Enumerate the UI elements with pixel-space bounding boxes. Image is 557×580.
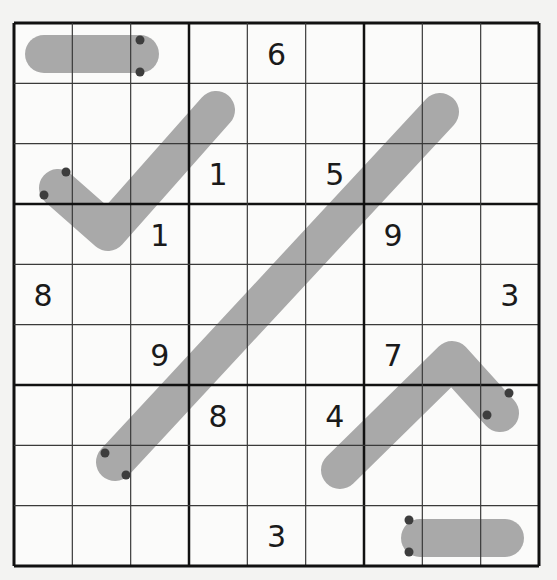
cell-r4c3[interactable]: 1 [131, 204, 189, 264]
cell-r8c8[interactable] [422, 445, 480, 505]
cell-r4c8[interactable] [422, 204, 480, 264]
cell-hitbox[interactable] [72, 144, 130, 204]
cell-r8c3[interactable] [131, 445, 189, 505]
cell-hitbox[interactable] [247, 264, 305, 324]
cell-r1c2[interactable] [72, 23, 130, 83]
cell-r5c3[interactable] [131, 264, 189, 324]
cell-hitbox[interactable] [364, 445, 422, 505]
cell-r6c2[interactable] [72, 325, 130, 385]
cell-r5c5[interactable] [247, 264, 305, 324]
cell-r2c8[interactable] [422, 83, 480, 143]
cell-hitbox[interactable] [131, 445, 189, 505]
cell-hitbox[interactable] [14, 23, 72, 83]
cell-hitbox[interactable] [481, 445, 539, 505]
cell-hitbox[interactable] [422, 264, 480, 324]
cell-r8c9[interactable] [481, 445, 539, 505]
cell-hitbox[interactable] [72, 23, 130, 83]
cell-hitbox[interactable] [422, 506, 480, 566]
cell-hitbox[interactable] [422, 385, 480, 445]
cell-r6c6[interactable] [306, 325, 364, 385]
cell-hitbox[interactable] [247, 204, 305, 264]
cell-hitbox[interactable] [481, 144, 539, 204]
cell-hitbox[interactable] [72, 506, 130, 566]
cell-hitbox[interactable] [72, 325, 130, 385]
cell-r2c2[interactable] [72, 83, 130, 143]
cell-hitbox[interactable] [189, 204, 247, 264]
cell-r3c3[interactable] [131, 144, 189, 204]
cell-hitbox[interactable] [306, 23, 364, 83]
cell-r1c9[interactable] [481, 23, 539, 83]
cell-r6c9[interactable] [481, 325, 539, 385]
cell-r3c8[interactable] [422, 144, 480, 204]
cell-r4c6[interactable] [306, 204, 364, 264]
cell-hitbox[interactable] [14, 325, 72, 385]
cell-r4c4[interactable] [189, 204, 247, 264]
cell-hitbox[interactable] [306, 506, 364, 566]
cell-hitbox[interactable] [481, 83, 539, 143]
cell-r5c1[interactable]: 8 [14, 264, 72, 324]
cell-r2c4[interactable] [189, 83, 247, 143]
cell-r9c7[interactable] [364, 506, 422, 566]
cell-hitbox[interactable] [247, 445, 305, 505]
cell-hitbox[interactable] [131, 385, 189, 445]
cell-hitbox[interactable] [247, 385, 305, 445]
cell-hitbox[interactable] [189, 264, 247, 324]
cell-hitbox[interactable] [306, 264, 364, 324]
cell-hitbox[interactable] [422, 144, 480, 204]
cell-hitbox[interactable] [364, 23, 422, 83]
cell-hitbox[interactable] [14, 204, 72, 264]
cell-r9c5[interactable]: 3 [247, 506, 305, 566]
cell-hitbox[interactable] [72, 385, 130, 445]
cell-hitbox[interactable] [422, 83, 480, 143]
cell-hitbox[interactable] [422, 325, 480, 385]
cell-hitbox[interactable] [189, 325, 247, 385]
cell-r2c6[interactable] [306, 83, 364, 143]
cell-hitbox[interactable] [364, 506, 422, 566]
cell-r4c9[interactable] [481, 204, 539, 264]
cell-r8c4[interactable] [189, 445, 247, 505]
cell-r6c7[interactable]: 7 [364, 325, 422, 385]
cell-r5c7[interactable] [364, 264, 422, 324]
cell-r8c6[interactable] [306, 445, 364, 505]
cell-r7c4[interactable]: 8 [189, 385, 247, 445]
cell-r6c4[interactable] [189, 325, 247, 385]
cell-r9c2[interactable] [72, 506, 130, 566]
cell-hitbox[interactable] [189, 445, 247, 505]
cell-hitbox[interactable] [131, 83, 189, 143]
cell-hitbox[interactable] [364, 83, 422, 143]
cell-r2c1[interactable] [14, 83, 72, 143]
cell-r3c7[interactable] [364, 144, 422, 204]
cell-hitbox[interactable] [131, 264, 189, 324]
cell-r8c5[interactable] [247, 445, 305, 505]
cell-r4c5[interactable] [247, 204, 305, 264]
cell-r1c6[interactable] [306, 23, 364, 83]
cell-hitbox[interactable] [131, 144, 189, 204]
cell-r6c3[interactable]: 9 [131, 325, 189, 385]
cell-hitbox[interactable] [14, 506, 72, 566]
cell-r2c7[interactable] [364, 83, 422, 143]
cell-hitbox[interactable] [72, 83, 130, 143]
cell-r7c3[interactable] [131, 385, 189, 445]
cell-r9c3[interactable] [131, 506, 189, 566]
cell-r3c2[interactable] [72, 144, 130, 204]
cell-hitbox[interactable] [247, 83, 305, 143]
cell-hitbox[interactable] [481, 506, 539, 566]
cell-r5c2[interactable] [72, 264, 130, 324]
cell-hitbox[interactable] [306, 204, 364, 264]
cell-r1c8[interactable] [422, 23, 480, 83]
cell-hitbox[interactable] [72, 264, 130, 324]
cell-hitbox[interactable] [14, 445, 72, 505]
cell-r6c5[interactable] [247, 325, 305, 385]
cell-hitbox[interactable] [247, 325, 305, 385]
cell-r7c6[interactable]: 4 [306, 385, 364, 445]
cell-r4c2[interactable] [72, 204, 130, 264]
cell-hitbox[interactable] [364, 385, 422, 445]
cell-r5c4[interactable] [189, 264, 247, 324]
cell-hitbox[interactable] [481, 23, 539, 83]
cell-r3c5[interactable] [247, 144, 305, 204]
cell-r5c8[interactable] [422, 264, 480, 324]
cell-r4c7[interactable]: 9 [364, 204, 422, 264]
cell-hitbox[interactable] [422, 445, 480, 505]
cell-r2c9[interactable] [481, 83, 539, 143]
cell-r3c4[interactable]: 1 [189, 144, 247, 204]
